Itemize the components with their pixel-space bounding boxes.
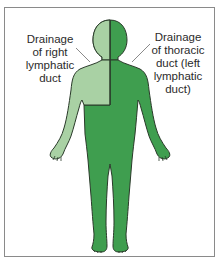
label-right-lymphatic-duct: Drainage of right lymphatic duct [20, 33, 80, 85]
digit-details [53, 156, 167, 253]
label-thoracic-duct: Drainage of thoracic duct (left lymphati… [143, 31, 213, 96]
